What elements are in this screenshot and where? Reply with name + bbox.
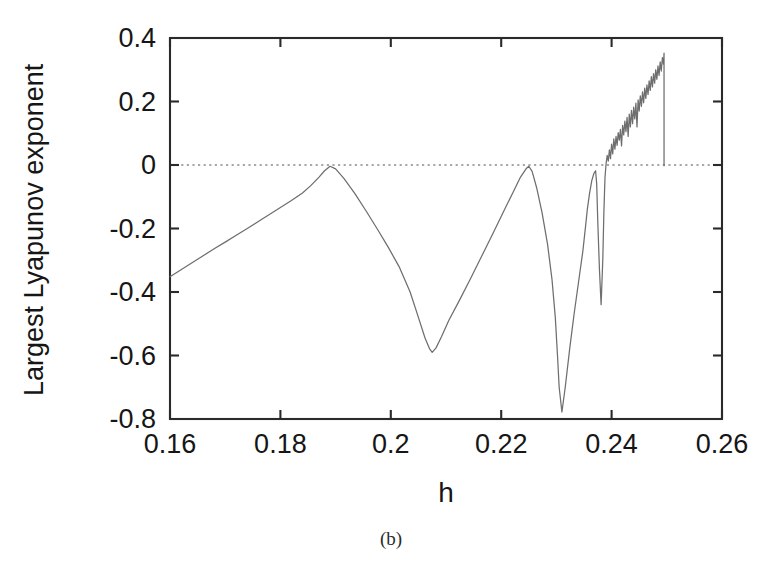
y-axis-tick-labels: -0.8-0.6-0.4-0.200.20.4 — [109, 23, 156, 434]
y-tick-label: -0.2 — [109, 214, 156, 244]
x-tick-label: 0.2 — [372, 429, 410, 459]
x-tick-label: 0.22 — [475, 429, 528, 459]
x-tick-label: 0.18 — [254, 429, 307, 459]
x-tick-label: 0.24 — [585, 429, 638, 459]
y-tick-label: -0.8 — [109, 404, 156, 434]
figure-container: 0.160.180.20.220.240.26 -0.8-0.6-0.4-0.2… — [0, 0, 783, 573]
y-axis-label: Largest Lyapunov exponent — [19, 63, 49, 396]
x-axis-tick-labels: 0.160.180.20.220.240.26 — [144, 429, 749, 459]
lyapunov-exponent-curve — [170, 53, 664, 412]
y-axis-ticks — [170, 102, 722, 356]
y-tick-label: 0.2 — [118, 87, 156, 117]
x-axis-label: h — [438, 477, 454, 508]
x-tick-label: 0.26 — [696, 429, 749, 459]
y-tick-label: -0.4 — [109, 277, 156, 307]
plot-frame — [170, 38, 722, 419]
y-tick-label: 0 — [141, 150, 156, 180]
figure-caption: (b) — [380, 528, 402, 550]
lyapunov-exponent-chart: 0.160.180.20.220.240.26 -0.8-0.6-0.4-0.2… — [0, 0, 783, 573]
y-tick-label: -0.6 — [109, 341, 156, 371]
x-axis-ticks — [170, 38, 722, 419]
y-tick-label: 0.4 — [118, 23, 156, 53]
